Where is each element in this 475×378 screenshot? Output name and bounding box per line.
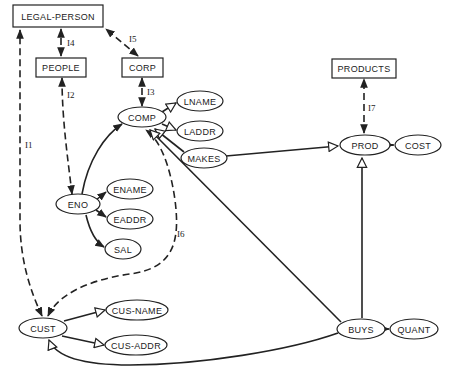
node-laddr: LADDR [177,121,223,141]
node-label: CUS-NAME [112,306,162,316]
node-label: PROD [351,141,378,151]
isa-label-i1: I1 [25,140,33,150]
edge-buys-comp [150,130,341,322]
edge-comp-laddr [162,124,176,130]
data-model-diagram: I1 I2 I3 I4 I5 I6 I7 LEGAL-PERSON PEOPLE… [0,0,475,378]
class-products: PRODUCTS [332,59,396,78]
node-label: ENO [68,200,88,210]
edge-comp-lname [162,103,176,112]
node-label: COST [405,141,431,151]
node-prod: PROD [340,135,390,155]
edge-cust-cusname [64,310,105,321]
node-quant: QUANT [390,319,438,339]
node-ename: ENAME [107,179,153,199]
isa-label-i4: I4 [67,38,75,48]
isa-label-i2: I2 [67,90,75,100]
edge-eno-eaddr [96,210,106,217]
edge-buys-cust [49,333,338,365]
node-cust: CUST [19,318,67,338]
node-label: MAKES [187,154,220,164]
node-cus-addr: CUS-ADDR [105,335,167,355]
class-label: CORP [129,63,156,73]
node-label: LADDR [184,127,216,137]
class-people: PEOPLE [36,58,86,77]
node-cost: COST [395,135,441,155]
node-label: LNAME [184,97,217,107]
class-label: LEGAL-PERSON [21,12,95,22]
edge-cust-cusaddr [62,336,104,345]
isa-label-i3: I3 [147,87,155,97]
node-comp: COMP [118,107,166,127]
node-label: CUS-ADDR [111,341,161,351]
node-label: ENAME [113,185,147,195]
edge-eno-sal [86,215,104,247]
node-label: BUYS [348,325,374,335]
node-makes: MAKES [181,148,227,168]
node-lname: LNAME [177,91,223,111]
isa-label-i6: I6 [177,229,185,239]
isa-label-i7: I7 [368,103,376,113]
node-label: EADDR [113,215,146,225]
class-label: PEOPLE [42,63,80,73]
class-legal-person: LEGAL-PERSON [13,5,103,27]
node-sal: SAL [105,239,141,259]
node-label: QUANT [398,325,431,335]
node-eno: ENO [56,194,100,214]
node-label: COMP [128,113,156,123]
node-label: CUST [30,324,56,334]
node-eaddr: EADDR [107,209,153,229]
node-label: SAL [114,245,132,255]
class-label: PRODUCTS [338,64,391,74]
isa-label-i5: I5 [129,34,137,44]
edge-makes-prod [226,146,338,156]
class-corp: CORP [122,58,163,77]
node-buys: BUYS [337,319,385,339]
node-cus-name: CUS-NAME [106,300,168,320]
